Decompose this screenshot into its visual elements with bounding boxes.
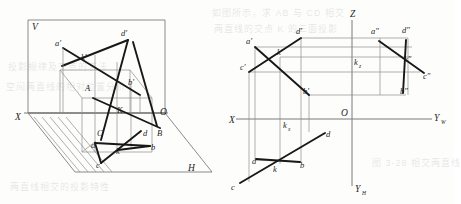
label-b-prime-left: b′: [128, 77, 134, 87]
label-origin-O-right: O: [341, 108, 348, 118]
label-c-prime-right: c′: [240, 62, 246, 72]
label-axis-Y-W: Y W: [434, 113, 446, 125]
left-pictorial-view: V H X O a′ d′ k′ b′ A B C K a b c d k: [14, 20, 212, 173]
label-k-prime-left: k′: [81, 52, 87, 62]
label-axis-Y-W-base: Y: [434, 113, 441, 123]
label-a-right: a: [252, 156, 256, 166]
label-k-z-base: k: [354, 57, 358, 67]
h-projection-lines: [95, 131, 150, 163]
label-plane-V: V: [32, 22, 39, 32]
h-plane-construction-lines: [34, 117, 112, 172]
label-axis-X-left: X: [14, 112, 22, 122]
label-c-dblprime: c″: [423, 71, 431, 81]
coordinate-axes: [236, 20, 432, 186]
label-c-right: c: [231, 182, 235, 192]
label-origin-O-left: O: [160, 107, 167, 117]
label-a-prime-right: a′: [246, 36, 252, 46]
label-axis-Z: Z: [350, 9, 356, 19]
label-k-prime-right: k′: [277, 47, 283, 57]
label-axis-Y-H: Y H: [355, 184, 367, 196]
label-k-dblprime: k″: [404, 54, 412, 64]
label-d-right: d: [326, 129, 331, 139]
label-b-prime-right: b′: [303, 86, 309, 96]
label-k-x-base: k: [283, 120, 287, 130]
label-B-left: B: [157, 128, 162, 138]
label-a-dblprime: a″: [371, 26, 379, 36]
label-a-left: a: [91, 140, 95, 150]
label-d-dblprime: d″: [402, 25, 410, 35]
label-d-prime-right: d′: [296, 26, 302, 36]
label-d-prime-left: d′: [121, 28, 127, 38]
frontal-projection-group: [249, 38, 420, 119]
label-b-right: b: [300, 160, 304, 170]
label-axis-X-right: X: [228, 115, 236, 125]
label-b-dblprime: b″: [400, 86, 408, 96]
line-c-prime-d-prime: [249, 38, 301, 72]
right-orthographic-view: X Z O Y W Y H a′ d′ k′ c′ b′ a″: [228, 9, 446, 196]
label-d-left: d: [143, 128, 148, 138]
label-axis-Y-H-base: Y: [355, 184, 362, 194]
label-C-left: C: [97, 128, 103, 138]
left-view-labels: V H X O a′ d′ k′ b′ A B C K a b c d k: [14, 22, 196, 173]
label-k-x-sub: x: [287, 126, 291, 132]
label-k-x: k x: [283, 120, 291, 132]
label-b-left: b: [151, 142, 155, 152]
spatial-lines-ab-cd: [93, 40, 160, 140]
label-A-left: A: [84, 83, 91, 93]
label-k-z-sub: z: [358, 63, 362, 69]
label-axis-Y-W-sub: W: [441, 119, 446, 125]
label-k-z: k z: [354, 57, 362, 69]
label-k-right: k: [273, 164, 277, 174]
label-c-left: c: [96, 160, 100, 170]
label-axis-Y-H-sub: H: [361, 190, 367, 196]
label-k-left: k: [116, 146, 120, 156]
right-view-labels: X Z O Y W Y H a′ d′ k′ c′ b′ a″: [228, 9, 446, 196]
label-a-prime-left: a′: [55, 38, 61, 48]
label-plane-H: H: [187, 163, 196, 173]
